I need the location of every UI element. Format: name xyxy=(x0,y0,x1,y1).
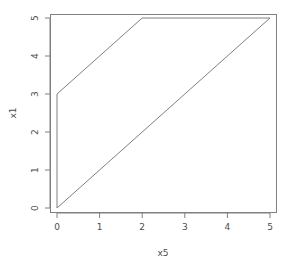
x-axis-label-5: 5 xyxy=(267,222,273,232)
y-axis-label-2: 2 xyxy=(30,129,40,135)
chart-background xyxy=(0,0,297,267)
x-axis-label-2: 2 xyxy=(139,222,145,232)
x-axis-label-0: 0 xyxy=(54,222,60,232)
x-axis-label-3: 3 xyxy=(182,222,188,232)
y-axis-label-3: 3 xyxy=(30,91,40,97)
x-axis-title: x5 xyxy=(157,248,168,258)
y-axis-title: x1 xyxy=(8,107,18,118)
chart-figure: 0 1 2 3 4 5 x5 0 1 2 3 4 5 x1 xyxy=(0,0,297,267)
y-axis-label-5: 5 xyxy=(30,15,40,21)
y-axis-label-0: 0 xyxy=(30,205,40,211)
x-axis-label-4: 4 xyxy=(225,222,231,232)
y-axis-label-4: 4 xyxy=(30,53,40,59)
y-axis-label-1: 1 xyxy=(30,167,40,173)
x-axis-label-1: 1 xyxy=(97,222,103,232)
plot-canvas: 0 1 2 3 4 5 x5 0 1 2 3 4 5 x1 xyxy=(0,0,297,267)
